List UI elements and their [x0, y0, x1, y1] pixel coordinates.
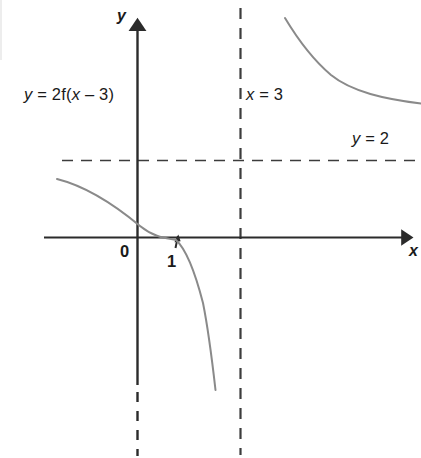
vertical-asymptote-value: = 3	[254, 85, 283, 103]
origin-tick-label: 0	[120, 243, 129, 260]
curve-equation-label: y = 2f(x – 3)	[24, 86, 114, 103]
y-axis-label: y	[117, 8, 126, 24]
horizontal-asymptote-label: y = 2	[352, 130, 389, 147]
x-axis-label: x	[409, 243, 418, 259]
x-intercept-tick-label: 1	[167, 253, 176, 270]
curve-right-branch	[285, 18, 421, 104]
vertical-asymptote-label: x = 3	[246, 86, 283, 103]
horizontal-asymptote-value: = 2	[360, 129, 389, 147]
curve-equation-x: x	[72, 85, 80, 103]
curve-left-branch	[57, 179, 216, 390]
curve-equation-operator: = 2f(	[32, 85, 71, 103]
curve-equation-tail: – 3)	[80, 85, 114, 103]
plot-canvas	[0, 0, 421, 458]
graph-figure: y = 2f(x – 3) x = 3 y = 2 y x 0 1	[0, 0, 421, 458]
